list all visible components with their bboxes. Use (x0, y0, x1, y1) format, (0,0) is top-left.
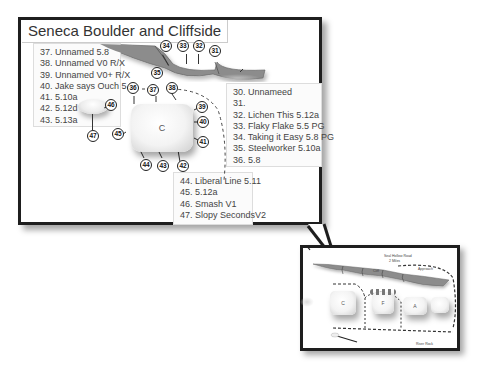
legend-right: 30. Unnameed 31. 32. Lichen This 5.12a 3… (226, 83, 322, 167)
route-marker-38[interactable]: 38 (166, 82, 178, 94)
route-marker-40[interactable]: 40 (197, 116, 209, 128)
route-marker-34[interactable]: 34 (160, 40, 172, 52)
legend-item: 36. 5.8 (233, 155, 315, 166)
route-marker-31[interactable]: 31 (209, 45, 221, 57)
boulder-label: F (381, 300, 384, 306)
route-marker-42[interactable]: 42 (177, 160, 189, 172)
legend-item: 35. Steelworker 5.10a (233, 143, 315, 154)
legend-item: 33. Flaky Flake 5.5 PG (233, 121, 315, 132)
route-marker-39[interactable]: 39 (196, 101, 208, 113)
boulder-label: C (341, 300, 345, 306)
route-marker-43[interactable]: 43 (157, 160, 169, 172)
boulder-label: C (159, 123, 166, 133)
route-marker-36[interactable]: 36 (127, 82, 139, 94)
inset-boulder-f[interactable]: F (372, 292, 394, 314)
route-marker-33[interactable]: 33 (177, 40, 189, 52)
route-marker-35[interactable]: 35 (151, 67, 163, 79)
road-label: Seal Hollow Road (384, 254, 412, 258)
cliff-tip (95, 42, 135, 62)
legend-item: 47. Slopy SecondsV2 (180, 210, 246, 221)
legend-item: 43. 5.13a (40, 115, 114, 126)
legend-item: 30. Unnameed (233, 87, 315, 98)
legend-item: 40. Jake says Ouch 5.8 (40, 81, 114, 92)
route-marker-45[interactable]: 45 (112, 128, 124, 140)
inset-boulder-a[interactable]: A (403, 297, 427, 315)
river-rock-label: River Rock (416, 342, 433, 346)
approach-label: Approach (418, 267, 433, 271)
legend-item: 32. Lichen This 5.12a (233, 110, 315, 121)
route-marker-44[interactable]: 44 (140, 159, 152, 171)
legend-item: 34. Taking it Easy 5.8 PG (233, 132, 315, 143)
boulder-label: A (413, 303, 416, 309)
legend-item: 39. Unnamed V0+ R/X (40, 70, 114, 81)
leader-line (186, 54, 187, 64)
inset-boulder-unnamed[interactable] (431, 297, 449, 313)
route-marker-46[interactable]: 46 (105, 99, 117, 111)
boulder-c[interactable]: C (131, 104, 193, 152)
route-marker-32[interactable]: 32 (193, 40, 205, 52)
legend-item: 46. Smash V1 (180, 199, 246, 210)
inset-boulder-c[interactable]: C (330, 291, 356, 315)
route-marker-41[interactable]: 41 (197, 136, 209, 148)
legend-item: 31. (233, 98, 315, 109)
route-marker-37[interactable]: 37 (147, 84, 159, 96)
leader-line (198, 54, 199, 64)
route-markers-cluster (370, 289, 396, 295)
shadow (300, 297, 314, 307)
road-distance: 2 Miles (389, 259, 400, 263)
route-marker-47[interactable]: 47 (87, 130, 99, 142)
leader-line (92, 114, 93, 130)
cliff-label: Cliff (373, 269, 379, 273)
